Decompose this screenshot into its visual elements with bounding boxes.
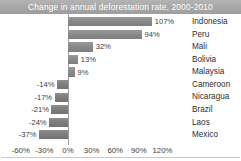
bar-laos[interactable] bbox=[49, 118, 68, 127]
category-label-bolivia: Bolivia bbox=[192, 54, 216, 66]
bar-nicaragua[interactable] bbox=[55, 93, 68, 102]
x-tick-label: 90% bbox=[131, 146, 147, 155]
bar-value-label: 13% bbox=[81, 54, 96, 65]
bar-mexico[interactable] bbox=[39, 130, 68, 139]
bar-value-label: 107% bbox=[155, 16, 174, 27]
bar-row: 9%Malaysia bbox=[0, 66, 241, 79]
bar-peru[interactable] bbox=[68, 30, 142, 39]
bar-value-label: 9% bbox=[78, 67, 89, 78]
x-tick-label: 60% bbox=[107, 146, 123, 155]
x-tick-label: 120% bbox=[152, 146, 172, 155]
category-label-laos: Laos bbox=[192, 117, 210, 129]
bar-bolivia[interactable] bbox=[68, 55, 78, 64]
bar-row: -37%Mexico bbox=[0, 129, 241, 142]
bar-value-label: 32% bbox=[96, 41, 111, 52]
x-tick-label: -30% bbox=[35, 146, 53, 155]
x-axis-rule bbox=[1, 157, 240, 158]
category-label-malaysia: Malaysia bbox=[192, 66, 224, 78]
bar-row: -24%Laos bbox=[0, 116, 241, 129]
bar-value-label: -21% bbox=[31, 104, 49, 115]
bar-brazil[interactable] bbox=[51, 105, 68, 114]
bar-malaysia[interactable] bbox=[68, 67, 75, 76]
category-label-brazil: Brazil bbox=[192, 104, 212, 116]
x-tick-label: 0% bbox=[62, 146, 73, 155]
category-label-nicaragua: Nicaragua bbox=[192, 91, 229, 103]
bar-value-label: -14% bbox=[37, 79, 55, 90]
category-label-cameroon: Cameroon bbox=[192, 79, 230, 91]
x-axis: -60%-30%0%30%60%90%120% bbox=[0, 145, 241, 161]
bar-cameroon[interactable] bbox=[57, 80, 68, 89]
category-label-mexico: Mexico bbox=[192, 129, 218, 141]
bar-value-label: -17% bbox=[34, 92, 52, 103]
category-label-indonesia: Indonesia bbox=[192, 16, 228, 28]
category-label-peru: Peru bbox=[192, 29, 209, 41]
chart-title: Change in annual deforestation rate, 200… bbox=[0, 0, 241, 14]
bar-mali[interactable] bbox=[68, 42, 93, 51]
bar-row: -21%Brazil bbox=[0, 104, 241, 117]
plot-area: 107%Indonesia94%Peru32%Mali13%Bolivia9%M… bbox=[0, 14, 241, 145]
x-tick-label: -60% bbox=[12, 146, 30, 155]
chart-title-band: Change in annual deforestation rate, 200… bbox=[0, 0, 241, 14]
bar-row: 32%Mali bbox=[0, 41, 241, 54]
bar-value-label: -37% bbox=[19, 129, 37, 140]
bar-row: -14%Cameroon bbox=[0, 79, 241, 92]
bar-indonesia[interactable] bbox=[68, 17, 152, 26]
bar-row: 13%Bolivia bbox=[0, 54, 241, 67]
bar-row: 107%Indonesia bbox=[0, 16, 241, 29]
category-label-mali: Mali bbox=[192, 41, 207, 53]
x-tick-label: 30% bbox=[84, 146, 100, 155]
bar-value-label: 94% bbox=[144, 29, 159, 40]
bar-row: -17%Nicaragua bbox=[0, 91, 241, 104]
deforestation-bar-chart: Change in annual deforestation rate, 200… bbox=[0, 0, 241, 161]
bar-row: 94%Peru bbox=[0, 29, 241, 42]
bar-value-label: -24% bbox=[29, 117, 47, 128]
